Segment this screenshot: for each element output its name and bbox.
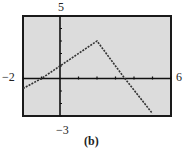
plot-area bbox=[0, 0, 187, 149]
window-frame bbox=[23, 16, 171, 116]
